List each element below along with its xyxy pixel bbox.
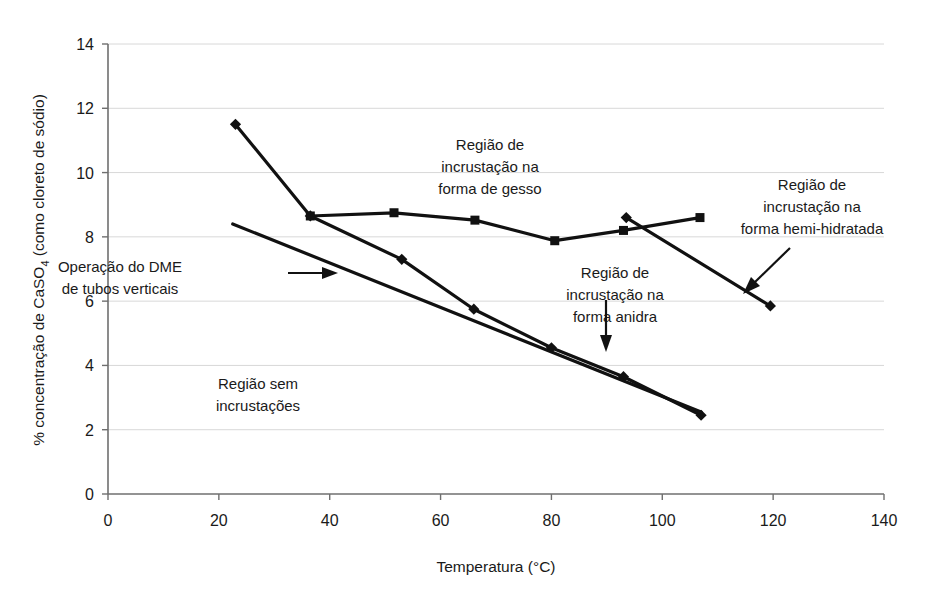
y-axis-title-suffix: (como cloreto de sódio) <box>30 94 47 260</box>
y-tick-label: 2 <box>85 422 94 439</box>
data-point-marker-square <box>695 213 704 222</box>
x-tick-label: 60 <box>432 512 450 529</box>
y-tick-label: 0 <box>85 486 94 503</box>
data-point-marker-square <box>550 236 559 245</box>
data-point-marker-square <box>306 211 315 220</box>
x-tick-label: 40 <box>321 512 339 529</box>
y-axis-title-prefix: % concentração de CaSO <box>30 267 47 446</box>
data-point-marker-square <box>470 216 479 225</box>
x-tick-label: 0 <box>104 512 113 529</box>
x-tick-label: 120 <box>760 512 787 529</box>
x-tick-label: 140 <box>871 512 898 529</box>
y-tick-label: 10 <box>76 165 94 182</box>
y-tick-label: 8 <box>85 229 94 246</box>
x-tick-label: 100 <box>649 512 676 529</box>
data-point-marker-square <box>619 226 628 235</box>
y-tick-label: 12 <box>76 100 94 117</box>
chart-svg: 020406080100120140 02468101214 Temperatu… <box>0 0 931 608</box>
data-point-marker-square <box>390 208 399 217</box>
y-tick-label: 14 <box>76 36 94 53</box>
x-tick-label: 20 <box>210 512 228 529</box>
y-tick-label: 4 <box>85 357 94 374</box>
chart-figure: 020406080100120140 02468101214 Temperatu… <box>0 0 931 608</box>
x-tick-label: 80 <box>543 512 561 529</box>
x-axis-title: Temperatura (°C) <box>436 558 555 575</box>
